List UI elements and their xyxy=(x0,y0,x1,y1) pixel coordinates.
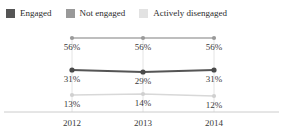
series-not-engaged xyxy=(70,36,216,40)
data-label-engaged-2014: 31% xyxy=(206,75,223,84)
legend-item-not-engaged[interactable]: Not engaged xyxy=(66,9,126,18)
legend-item-engaged[interactable]: Engaged xyxy=(6,9,52,18)
data-label-engaged-2013: 29% xyxy=(135,77,152,86)
data-label-not-engaged-2014: 56% xyxy=(206,43,223,52)
legend-label-actively-disengaged: Actively disengaged xyxy=(153,9,227,18)
data-label-not-engaged-2013: 56% xyxy=(135,43,152,52)
data-label-actively-disengaged-2014: 12% xyxy=(206,101,223,110)
x-tick-label-2013: 2013 xyxy=(134,119,152,128)
x-tick-label-2014: 2014 xyxy=(205,119,223,128)
x-tick-label-2012: 2012 xyxy=(63,119,81,128)
legend-swatch-actively-disengaged xyxy=(139,9,148,18)
data-label-engaged-2012: 31% xyxy=(64,75,81,84)
chart-legend: Engaged Not engaged Actively disengaged xyxy=(0,0,283,26)
data-label-not-engaged-2012: 56% xyxy=(64,43,81,52)
legend-swatch-engaged xyxy=(6,9,15,18)
legend-label-engaged: Engaged xyxy=(20,9,52,18)
legend-label-not-engaged: Not engaged xyxy=(80,9,126,18)
data-label-actively-disengaged-2013: 14% xyxy=(135,99,152,108)
plot-area: 56% 56% 56% 31% 29% 31% 13% 14% 12% 2012… xyxy=(0,26,283,135)
legend-swatch-not-engaged xyxy=(66,9,75,18)
line-chart: Engaged Not engaged Actively disengaged xyxy=(0,0,283,135)
legend-item-actively-disengaged[interactable]: Actively disengaged xyxy=(139,9,227,18)
data-label-actively-disengaged-2012: 13% xyxy=(64,100,81,109)
